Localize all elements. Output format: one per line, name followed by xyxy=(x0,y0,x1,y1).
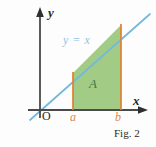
origin-label: O xyxy=(42,110,51,122)
coordinate-plane-diagram xyxy=(0,0,156,147)
x-tick-label-a: a xyxy=(70,111,76,123)
figure-container: y x O y = x A a b Fig. 2 xyxy=(0,0,156,147)
x-tick-label-b: b xyxy=(115,111,121,123)
figure-caption: Fig. 2 xyxy=(114,128,140,139)
x-axis-label: x xyxy=(133,94,140,107)
y-axis-arrowhead xyxy=(36,7,44,17)
line-equation-label: y = x xyxy=(63,34,90,46)
area-region-label: A xyxy=(89,77,97,90)
y-axis-label: y xyxy=(48,6,54,19)
